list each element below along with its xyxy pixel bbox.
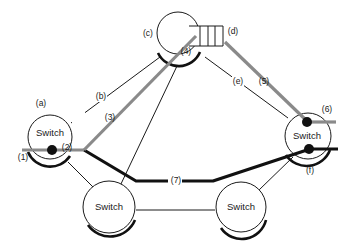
label-3: (3) [105, 112, 116, 122]
label-7: (7) [171, 175, 182, 185]
right-switch-label: Switch [293, 130, 321, 141]
bottom-right-switch-label: Switch [227, 201, 255, 212]
left-switch-label: Switch [36, 127, 64, 138]
bottom-right-switch[interactable]: Switch [216, 182, 266, 239]
host-dot-left [47, 145, 57, 155]
label-f: (f) [306, 165, 314, 175]
bottom-left-switch-label: Switch [95, 201, 123, 212]
label-5: (5) [259, 76, 270, 86]
label-6: (6) [322, 104, 333, 114]
left-switch[interactable]: Switch [28, 115, 72, 167]
label-b: (b) [96, 91, 107, 101]
host-dot-right-top [302, 117, 312, 127]
link-bottom-right-to-right [259, 157, 293, 190]
label-2: (2) [62, 142, 73, 152]
link-e [205, 57, 288, 118]
label-c: (c) [143, 28, 153, 38]
bottom-left-switch[interactable]: Switch [83, 181, 135, 237]
label-4: (4) [181, 46, 192, 56]
label-d: (d) [228, 26, 239, 36]
link-left-bottom [68, 162, 93, 187]
label-a: (a) [36, 98, 47, 108]
host-dot-right-bottom [304, 144, 314, 154]
label-1: (1) [18, 152, 29, 162]
network-diagram: Switch Switch Switch Switch [0, 0, 354, 246]
label-e: (e) [233, 76, 244, 86]
